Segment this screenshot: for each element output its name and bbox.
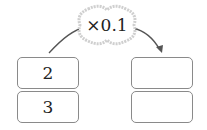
multiplication-diagram: ×0.1 2 3 xyxy=(0,0,207,130)
left-box-1: 2 xyxy=(17,57,79,89)
arc-right xyxy=(133,28,160,50)
left-box-2: 3 xyxy=(17,91,79,123)
operation-label: ×0.1 xyxy=(80,12,134,38)
right-box-2[interactable] xyxy=(131,91,193,123)
right-box-1[interactable] xyxy=(131,57,193,89)
